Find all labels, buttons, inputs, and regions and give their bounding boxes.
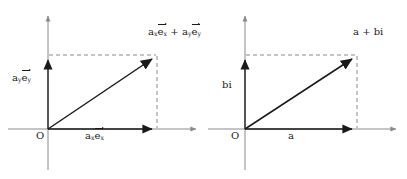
plus-operator: + [170,26,178,37]
x-unit-vector: ex [95,131,105,141]
y-component-label: ayey [12,73,31,83]
term2-unit-subscript: y [197,30,201,37]
vector-arrow-tip-icon [29,69,31,71]
origin-label: O [231,131,239,141]
real-component-label: a [288,131,294,141]
x-unit-subscript: x [101,134,105,141]
y-unit-vector: ey [22,73,32,83]
vector-decomposition-panel: axex + ayey axex ayey O [0,0,203,179]
vector-complex-figure: axex + ayey axex ayey O [0,0,407,179]
term1-unit-subscript: x [164,30,168,37]
x-unit-letter: e [95,130,101,141]
origin-label: O [36,131,44,141]
term1-unit-letter: e [158,26,164,37]
x-component-label: axex [85,131,104,141]
term2-unit-vector: ey [191,27,201,37]
vector-arrow-tip-icon [198,23,200,25]
resultant-vector [48,59,152,129]
imaginary-component-label: bi [222,80,232,90]
y-unit-letter: e [22,72,28,83]
vector-arrow-tip-icon [102,127,104,129]
vector-arrow-tip-icon [165,23,167,25]
term2-coefficient: a [182,26,188,37]
term1-unit-vector: ex [158,27,168,37]
complex-plane-panel: a + bi a bi O [204,0,407,179]
y-unit-subscript: y [28,76,32,83]
complex-number-vector [245,59,352,129]
complex-number-label: a + bi [353,27,383,37]
resultant-vector-label: axex + ayey [148,27,201,37]
